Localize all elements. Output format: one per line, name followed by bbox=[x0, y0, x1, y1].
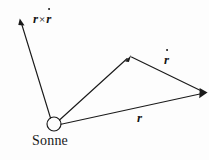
velocity-vector-label: r bbox=[164, 53, 169, 66]
radius-to-apex-shaft bbox=[60, 59, 128, 121]
velocity-label-stack: r bbox=[164, 53, 169, 66]
velocity-label-glyph: r bbox=[164, 52, 169, 67]
origin-caption: Sonne bbox=[32, 134, 68, 148]
velocity-vector bbox=[132, 57, 208, 95]
angular-momentum-vector-arrowhead bbox=[18, 19, 24, 26]
angular-momentum-label: r×r bbox=[33, 12, 51, 25]
position-vector-shaft bbox=[61, 94, 201, 124]
angular-momentum-vector bbox=[18, 19, 50, 118]
position-vector bbox=[61, 90, 208, 124]
origin-sun-circle bbox=[47, 117, 61, 131]
position-vector-label: r bbox=[137, 111, 142, 124]
angular-momentum-label-rdot-glyph: r bbox=[46, 11, 51, 26]
angular-momentum-label-rdot: r bbox=[46, 12, 51, 25]
angular-momentum-vector-shaft bbox=[22, 24, 51, 119]
cross-product-operator-icon: × bbox=[38, 13, 46, 25]
radius-to-apex-arrowhead bbox=[125, 55, 131, 62]
radius-to-apex-vector bbox=[60, 55, 132, 120]
vector-diagram-figure: r×r r r Sonne bbox=[0, 0, 209, 160]
